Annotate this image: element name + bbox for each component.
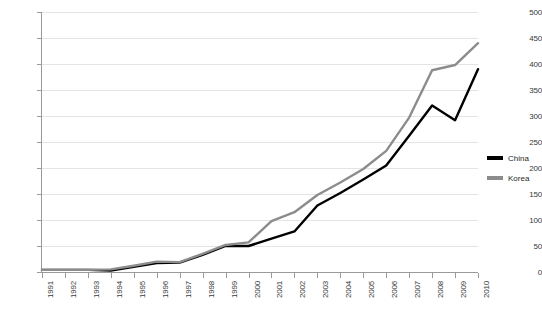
- y-axis-tick-mark: [37, 12, 41, 13]
- gridline: [42, 194, 478, 195]
- y-axis-tick-mark: [37, 116, 41, 117]
- x-axis-tick-label: 2007: [413, 281, 422, 298]
- x-axis-tick-mark: [180, 273, 181, 278]
- y-axis-tick-label: 300: [506, 112, 542, 121]
- x-axis-tick-label: 1994: [115, 281, 124, 298]
- x-axis-tick-label: 2003: [321, 281, 330, 298]
- legend-swatch-korea: [487, 176, 503, 180]
- gridline: [42, 64, 478, 65]
- x-axis-tick-mark: [340, 273, 341, 278]
- x-axis-tick-mark: [203, 273, 204, 278]
- x-axis-tick-mark: [134, 273, 135, 278]
- line-chart: 050100150200250300350400450500 199119921…: [0, 0, 542, 320]
- x-axis-tick-mark: [42, 273, 43, 278]
- legend-label-korea: Korea: [508, 174, 529, 183]
- legend-item-china: China: [487, 148, 539, 168]
- y-axis-tick-label: 400: [506, 60, 542, 69]
- x-axis-tick-label: 2000: [253, 281, 262, 298]
- x-axis-tick-label: 2006: [390, 281, 399, 298]
- y-axis-tick-mark: [37, 272, 41, 273]
- y-axis-tick-label: 100: [506, 216, 542, 225]
- x-axis-tick-label: 1998: [207, 281, 216, 298]
- x-axis-tick-label: 2008: [436, 281, 445, 298]
- y-axis-tick-mark: [37, 168, 41, 169]
- y-axis-tick-label: 250: [506, 138, 542, 147]
- y-axis-tick-label: 50: [506, 242, 542, 251]
- legend: China Korea: [487, 148, 539, 188]
- gridline: [42, 116, 478, 117]
- y-axis-tick-mark: [37, 90, 41, 91]
- x-axis-tick-label: 1993: [92, 281, 101, 298]
- y-axis-tick-mark: [37, 246, 41, 247]
- x-axis-tick-label: 2002: [298, 281, 307, 298]
- x-axis-tick-label: 2001: [275, 281, 284, 298]
- x-axis-tick-mark: [249, 273, 250, 278]
- y-axis-tick-label: 350: [506, 86, 542, 95]
- x-axis-tick-mark: [409, 273, 410, 278]
- y-axis-tick-mark: [37, 194, 41, 195]
- y-axis-tick-label: 0: [506, 268, 542, 277]
- x-axis-tick-mark: [455, 273, 456, 278]
- x-axis-tick-label: 1997: [184, 281, 193, 298]
- x-axis-tick-mark: [363, 273, 364, 278]
- x-axis-tick-mark: [271, 273, 272, 278]
- x-axis-tick-mark: [226, 273, 227, 278]
- series-line-korea: [42, 43, 478, 270]
- x-axis-tick-label: 2005: [367, 281, 376, 298]
- y-axis-tick-mark: [37, 38, 41, 39]
- y-axis-tick-mark: [37, 220, 41, 221]
- x-axis-tick-label: 2009: [459, 281, 468, 298]
- gridline: [42, 12, 478, 13]
- gridline: [42, 90, 478, 91]
- x-axis-tick-label: 1996: [161, 281, 170, 298]
- x-axis-tick-mark: [111, 273, 112, 278]
- x-axis-tick-mark: [65, 273, 66, 278]
- x-axis-tick-label: 2010: [482, 281, 491, 298]
- y-axis-tick-mark: [37, 142, 41, 143]
- x-axis-tick-label: 2004: [344, 281, 353, 298]
- x-axis-tick-mark: [317, 273, 318, 278]
- x-axis-tick-mark: [294, 273, 295, 278]
- x-axis-tick-mark: [88, 273, 89, 278]
- x-axis-tick-mark: [157, 273, 158, 278]
- legend-item-korea: Korea: [487, 168, 539, 188]
- gridline: [42, 220, 478, 221]
- gridline: [42, 38, 478, 39]
- y-axis-tick-label: 500: [506, 8, 542, 17]
- legend-swatch-china: [487, 156, 503, 160]
- gridline: [42, 246, 478, 247]
- y-axis-tick-label: 150: [506, 190, 542, 199]
- y-axis-tick-mark: [37, 64, 41, 65]
- series-line-china: [42, 69, 478, 270]
- gridline: [42, 142, 478, 143]
- x-axis-tick-label: 1991: [46, 281, 55, 298]
- x-axis-tick-mark: [386, 273, 387, 278]
- x-axis-tick-mark: [432, 273, 433, 278]
- gridline: [42, 272, 478, 273]
- y-axis-tick-label: 450: [506, 34, 542, 43]
- x-axis-tick-mark: [478, 273, 479, 278]
- gridline: [42, 168, 478, 169]
- legend-label-china: China: [508, 154, 529, 163]
- x-axis-tick-label: 1999: [230, 281, 239, 298]
- x-axis-tick-label: 1992: [69, 281, 78, 298]
- x-axis-tick-label: 1995: [138, 281, 147, 298]
